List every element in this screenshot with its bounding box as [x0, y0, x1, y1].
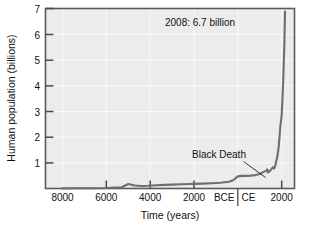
x-tick-label-8000bce: 8000 [51, 192, 74, 203]
x-tick-label-6000bce: 6000 [95, 192, 118, 203]
y-tick-label-4: 4 [34, 81, 40, 92]
human-population-line-chart: 2008: 6.7 billion Black Death 7 6 5 4 3 … [0, 0, 317, 230]
x-tick-label-4000bce: 4000 [139, 192, 162, 203]
y-tick-label-1: 1 [34, 158, 40, 169]
y-tick-label-2: 2 [34, 132, 40, 143]
y-tick-label-5: 5 [34, 55, 40, 66]
y-axis-title: Human population (billions) [5, 34, 17, 161]
x-tick-label-ce: CE [242, 192, 256, 203]
x-tick-label-bce: BCE [214, 192, 235, 203]
population-chart-figure: 2008: 6.7 billion Black Death 7 6 5 4 3 … [0, 0, 317, 230]
plot-area-background [46, 9, 295, 189]
y-tick-label-7: 7 [34, 4, 40, 15]
x-tick-label-2000ce: 2000 [271, 192, 294, 203]
x-tick-label-2000bce: 2000 [183, 192, 206, 203]
x-axis-title: Time (years) [141, 209, 200, 221]
peak-annotation-label: 2008: 6.7 billion [165, 17, 235, 28]
y-tick-label-3: 3 [34, 107, 40, 118]
black-death-annotation-label: Black Death [192, 149, 246, 160]
y-tick-label-6: 6 [34, 30, 40, 41]
